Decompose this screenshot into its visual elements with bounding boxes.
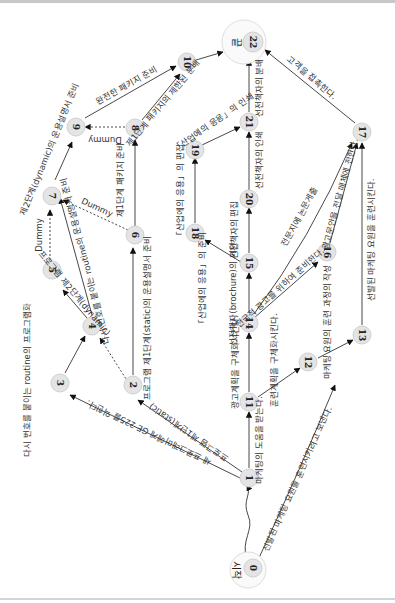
label-e2-6: 프로그램 제1단계(static)의 운용설명서 준비	[142, 236, 152, 399]
label-e16-17: 광고문안을 전달 매체에 전한다.	[320, 137, 359, 250]
svg-text:12: 12	[303, 356, 313, 369]
node-2: 2	[124, 376, 142, 394]
node-13: 13	[353, 326, 371, 344]
label-e0-13: 선발된 마케팅 요원을 훈련시키려고 보낸다.	[261, 405, 334, 553]
side-note: 다시 번호를 붙이는 routine의 프로그램화	[22, 303, 32, 456]
node-7: 7	[43, 187, 61, 205]
label-e13-17: 선발된 마케팅 요원을 훈련시킨다.	[366, 179, 376, 302]
svg-text:0: 0	[248, 565, 258, 571]
pert-diagram: 0 시작 1 2 3 4 5 6 7 8 9 10 11 12 13 14 15…	[0, 0, 395, 603]
edge-0-1	[245, 485, 250, 560]
node-15: 15	[240, 254, 258, 272]
edge-10-22	[196, 52, 223, 60]
label-e17-22: 고객을 접촉한다.	[285, 54, 338, 101]
edge-11-12	[258, 368, 300, 397]
label-e18-19: 「산업에의 응용」의 편집	[175, 144, 185, 239]
label-dummy-5-7: Dummy	[34, 218, 44, 252]
svg-text:21: 21	[244, 116, 254, 129]
label-e15-20: 선전책자의 편집	[229, 201, 239, 260]
edge-7-9	[55, 142, 72, 180]
svg-text:11: 11	[244, 396, 254, 409]
node-20: 20	[240, 190, 258, 208]
node-12: 12	[299, 353, 317, 371]
node-9: 9	[67, 118, 85, 136]
svg-text:6: 6	[130, 232, 140, 238]
edge-17-22	[265, 50, 355, 123]
label-e21-22: 선전책자의 분배	[254, 59, 264, 118]
label-e6-8: 제1단계 패키지 준비	[115, 143, 125, 218]
start-label: 시작	[231, 561, 242, 579]
node-3: 3	[51, 374, 69, 392]
svg-text:9: 9	[71, 124, 81, 130]
svg-text:15: 15	[244, 257, 254, 270]
svg-text:1: 1	[244, 475, 254, 481]
svg-text:22: 22	[248, 36, 258, 49]
node-0: 0 시작	[230, 552, 266, 588]
label-e20-21: 선전책자의 인쇄	[254, 131, 264, 190]
label-dummy-6-7: Dummy	[80, 196, 115, 219]
svg-text:3: 3	[55, 380, 65, 386]
label-e9-10: 완전한 패키지 준비	[94, 64, 159, 107]
svg-text:19: 19	[190, 144, 200, 157]
svg-text:17: 17	[357, 126, 367, 139]
label-dummy-8-9: Dummy	[88, 135, 122, 145]
node-22: 22 끝	[222, 20, 266, 64]
label-e15-18: 「산업에의 응용」의 준비	[197, 232, 207, 327]
svg-text:2: 2	[128, 382, 138, 388]
svg-text:13: 13	[357, 329, 367, 342]
svg-text:20: 20	[244, 193, 254, 206]
label-e11-12: 훈련계획을 구체화시킨다.	[269, 313, 279, 406]
edge-3-4	[65, 336, 85, 373]
label-e12-13: 마케팅 요원의 훈련 과정의 작성	[322, 265, 332, 380]
edge-14-17	[254, 143, 352, 314]
end-label: 끝	[231, 38, 242, 47]
label-e14-17: 전문지에 논문게출	[279, 185, 319, 249]
label-e1-11: 마케팅의 도움을 받는다.	[254, 396, 264, 484]
svg-text:7: 7	[47, 193, 57, 199]
node-17: 17	[353, 123, 371, 141]
edge-14-16	[254, 262, 318, 318]
